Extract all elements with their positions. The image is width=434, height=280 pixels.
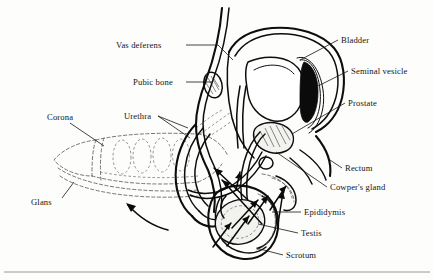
label-rectum: Rectum (345, 163, 373, 173)
crus-ghost-hatch (196, 110, 236, 140)
anatomy-figure: Vas deferens Pubic bone Urethra Corona G… (0, 0, 434, 280)
leader-vas-deferens (186, 45, 233, 60)
anatomy-diagram-svg: Vas deferens Pubic bone Urethra Corona G… (0, 0, 434, 280)
label-bladder: Bladder (341, 35, 369, 45)
leader-cowpers-gland (276, 152, 327, 187)
label-seminal-vesicle: Seminal vesicle (351, 66, 407, 76)
label-pubic-bone: Pubic bone (133, 77, 173, 87)
cowpers-gland-organ (259, 157, 273, 169)
label-testis: Testis (301, 228, 322, 238)
label-vas-deferens: Vas deferens (116, 40, 162, 50)
urethra-tube (188, 152, 266, 198)
label-scrotum: Scrotum (286, 250, 316, 260)
flaccid-transition-arrow (126, 203, 168, 230)
label-prostate: Prostate (348, 98, 377, 108)
leader-corona (70, 123, 104, 146)
bladder-organ (246, 57, 305, 121)
scrotum-ghost-contour (262, 174, 296, 211)
seminal-vesicle-organ (297, 57, 324, 133)
label-corona: Corona (47, 112, 73, 122)
leader-glans (62, 182, 74, 198)
label-urethra: Urethra (124, 111, 151, 121)
leader-rectum (330, 160, 342, 168)
label-cowpers-gland: Cowper's gland (330, 182, 386, 192)
label-glans: Glans (31, 197, 52, 207)
prostate-organ (254, 123, 294, 154)
rectum-organ (290, 136, 330, 184)
penis-flaccid-ghost (54, 133, 228, 197)
label-epididymis: Epididymis (304, 207, 346, 217)
